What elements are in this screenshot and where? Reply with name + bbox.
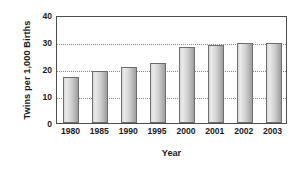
y-axis-tick-label: 30 xyxy=(36,39,52,48)
bar xyxy=(92,71,108,123)
bar xyxy=(150,63,166,123)
bar xyxy=(121,67,137,123)
y-axis-tick-label: 20 xyxy=(36,66,52,75)
bar xyxy=(266,43,282,123)
bar xyxy=(237,43,253,123)
plot-area xyxy=(56,16,287,124)
bar-chart: Twins per 1,000 Births 010203040 1980198… xyxy=(0,0,300,169)
bar xyxy=(208,45,224,123)
y-axis-tick-label: 10 xyxy=(36,93,52,102)
bar xyxy=(179,47,195,123)
x-axis-tick-label: 2003 xyxy=(256,127,290,136)
bar xyxy=(63,77,79,123)
x-axis-title: Year xyxy=(56,148,287,158)
y-axis-tick-label: 0 xyxy=(36,120,52,129)
y-axis-tick-label: 40 xyxy=(36,12,52,21)
